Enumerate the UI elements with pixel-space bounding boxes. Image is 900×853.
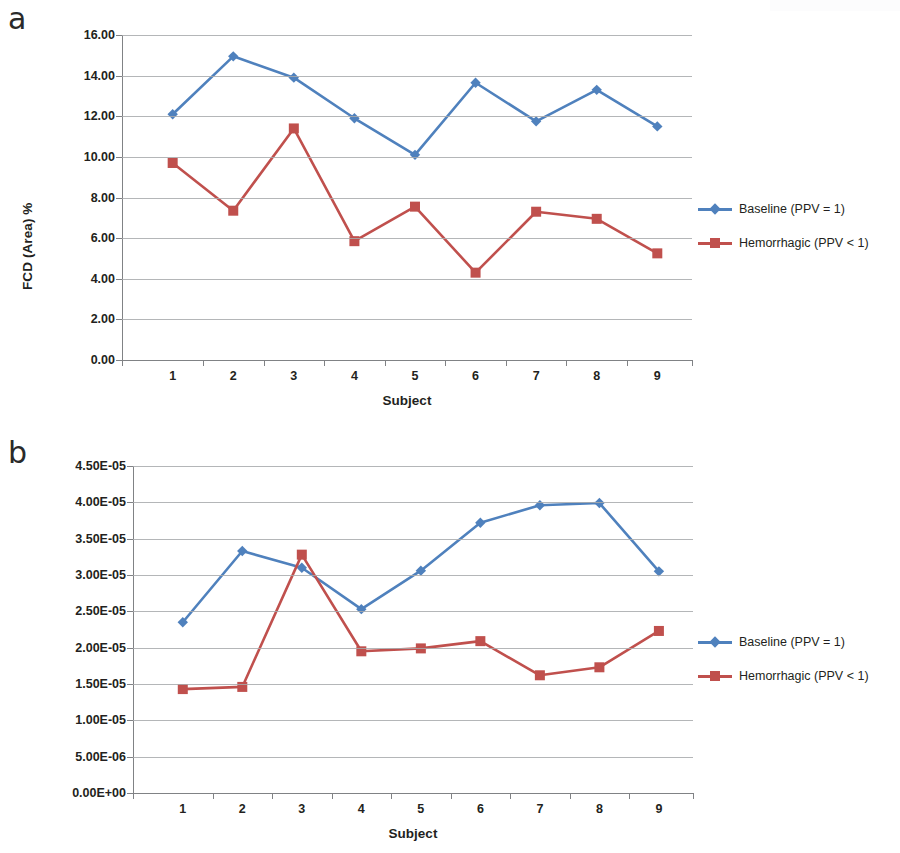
gridline <box>122 157 692 158</box>
x-tick-mark <box>391 793 392 799</box>
x-tick-mark <box>445 360 446 366</box>
x-tick-label: 9 <box>655 802 662 816</box>
y-tick-mark <box>116 116 122 117</box>
x-tick-mark <box>566 360 567 366</box>
x-tick-label: 5 <box>412 369 419 383</box>
data-point-square-marker <box>535 670 545 680</box>
gridline <box>122 198 692 199</box>
y-tick-mark <box>116 279 122 280</box>
y-tick-mark <box>127 466 133 467</box>
x-tick-mark <box>510 793 511 799</box>
x-tick-mark <box>629 793 630 799</box>
x-tick-mark <box>570 793 571 799</box>
legend-diamond-marker-icon <box>698 635 732 649</box>
gridline <box>122 76 692 77</box>
y-tick-mark <box>127 611 133 612</box>
x-tick-label: 5 <box>417 802 424 816</box>
y-tick-label: 3.00E-05 <box>75 568 126 582</box>
legend-item[interactable]: Hemorrhagic (PPV < 1) <box>698 659 869 693</box>
x-tick-label: 9 <box>654 369 661 383</box>
y-tick-mark <box>127 575 133 576</box>
x-tick-mark <box>324 360 325 366</box>
data-point-square-marker <box>654 626 664 636</box>
y-tick-label: 10.00 <box>84 150 115 164</box>
gridline <box>133 648 693 649</box>
x-axis-line <box>133 793 693 794</box>
legend-item-label: Baseline (PPV = 1) <box>739 203 845 216</box>
panel-b-letter: b <box>8 438 27 468</box>
legend-item-label: Baseline (PPV = 1) <box>739 636 845 649</box>
y-tick-label: 0.00E+00 <box>72 786 126 800</box>
x-tick-label: 4 <box>358 802 365 816</box>
x-axis-line <box>122 360 692 361</box>
y-tick-mark <box>127 757 133 758</box>
x-tick-label: 4 <box>351 369 358 383</box>
x-tick-mark <box>203 360 204 366</box>
y-tick-label: 4.00E-05 <box>75 495 126 509</box>
x-tick-mark <box>451 793 452 799</box>
y-tick-label: 2.00E-05 <box>75 641 126 655</box>
data-point-square-marker <box>410 202 420 212</box>
y-tick-mark <box>127 684 133 685</box>
x-tick-mark <box>385 360 386 366</box>
x-tick-label: 7 <box>533 369 540 383</box>
x-tick-label: 6 <box>472 369 479 383</box>
data-point-square-marker <box>531 207 541 217</box>
gridline <box>122 116 692 117</box>
y-tick-label: 2.50E-05 <box>75 604 126 618</box>
x-tick-mark <box>122 360 123 366</box>
panel-b-legend: Baseline (PPV = 1)Hemorrhagic (PPV < 1) <box>698 625 869 693</box>
legend-item-label: Hemorrhagic (PPV < 1) <box>739 670 869 683</box>
y-tick-mark <box>116 198 122 199</box>
y-tick-label: 2.00 <box>91 312 115 326</box>
legend-square-marker-icon <box>698 669 732 683</box>
panel-a-letter: a <box>8 4 26 34</box>
x-tick-label: 1 <box>179 802 186 816</box>
gridline <box>122 35 692 36</box>
x-tick-label: 8 <box>593 369 600 383</box>
y-tick-mark <box>127 648 133 649</box>
x-tick-mark <box>213 793 214 799</box>
panel-b-series-layer <box>133 466 693 793</box>
panel-a-legend: Baseline (PPV = 1)Hemorrhagic (PPV < 1) <box>698 192 869 260</box>
y-tick-label: 4.00 <box>91 272 115 286</box>
gridline <box>133 502 693 503</box>
data-point-square-marker <box>289 123 299 133</box>
data-point-square-marker <box>228 206 238 216</box>
data-point-square-marker <box>592 214 602 224</box>
data-point-square-marker <box>652 248 662 258</box>
y-tick-label: 16.00 <box>84 28 115 42</box>
x-tick-label: 6 <box>477 802 484 816</box>
y-tick-mark <box>127 720 133 721</box>
y-tick-label: 3.50E-05 <box>75 532 126 546</box>
y-tick-mark <box>127 502 133 503</box>
gridline <box>133 575 693 576</box>
gridline <box>133 466 693 467</box>
legend-item[interactable]: Hemorrhagic (PPV < 1) <box>698 226 869 260</box>
data-point-square-marker <box>475 636 485 646</box>
data-point-square-marker <box>471 268 481 278</box>
x-tick-label: 1 <box>169 369 176 383</box>
y-tick-label: 4.50E-05 <box>75 459 126 473</box>
panel-a: a FCD (Area) % Subject 0.002.004.006.008… <box>0 0 900 430</box>
x-tick-label: 3 <box>298 802 305 816</box>
panel-b-x-axis-title: Subject <box>389 826 438 841</box>
legend-item[interactable]: Baseline (PPV = 1) <box>698 192 869 226</box>
x-tick-mark <box>272 793 273 799</box>
x-tick-mark <box>133 793 134 799</box>
y-tick-label: 6.00 <box>91 231 115 245</box>
legend-square-marker-icon <box>698 236 732 250</box>
y-tick-mark <box>116 238 122 239</box>
y-tick-label: 0.00 <box>91 353 115 367</box>
legend-item[interactable]: Baseline (PPV = 1) <box>698 625 869 659</box>
y-tick-mark <box>116 35 122 36</box>
gridline <box>122 319 692 320</box>
figure-two-panel-line-charts: a FCD (Area) % Subject 0.002.004.006.008… <box>0 0 900 853</box>
legend-item-label: Hemorrhagic (PPV < 1) <box>739 237 869 250</box>
y-tick-label: 12.00 <box>84 109 115 123</box>
gridline <box>122 238 692 239</box>
y-tick-mark <box>116 157 122 158</box>
x-tick-mark <box>692 360 693 366</box>
panel-a-plot-area: Subject 0.002.004.006.008.0010.0012.0014… <box>122 35 692 360</box>
gridline <box>133 539 693 540</box>
